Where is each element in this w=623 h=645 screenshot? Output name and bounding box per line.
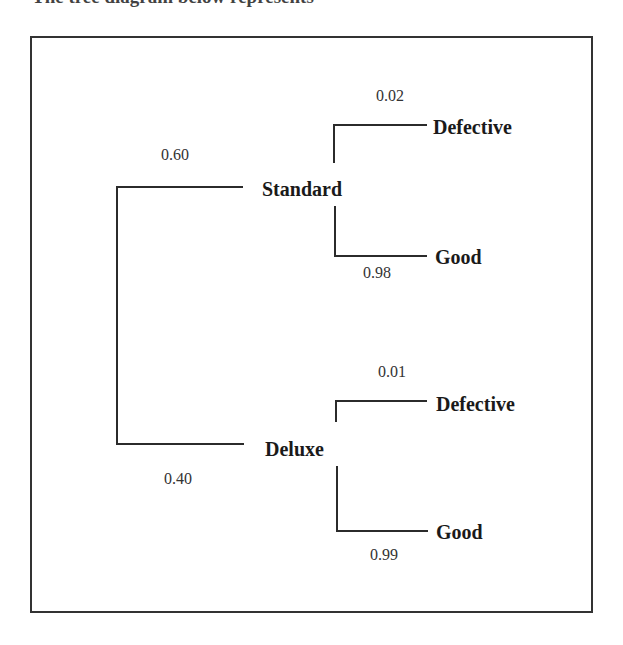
node-standard-good: Good <box>435 246 482 268</box>
deluxe-upper-stem <box>335 400 337 422</box>
node-deluxe-defective: Defective <box>436 393 515 415</box>
branch-root-standard <box>116 186 243 188</box>
prob-standard-defective: 0.02 <box>376 87 404 105</box>
node-deluxe-good: Good <box>436 521 483 543</box>
node-standard-defective: Defective <box>433 116 512 138</box>
node-deluxe: Deluxe <box>265 438 324 460</box>
root-spine <box>116 186 118 445</box>
prob-deluxe: 0.40 <box>164 470 192 488</box>
standard-lower-stem <box>334 206 336 256</box>
prob-deluxe-good: 0.99 <box>370 546 398 564</box>
deluxe-lower-stem <box>336 466 338 531</box>
clipped-heading: The tree diagram below represents <box>32 0 314 8</box>
prob-standard: 0.60 <box>161 146 189 164</box>
branch-root-deluxe <box>116 443 244 445</box>
prob-standard-good: 0.98 <box>363 264 391 282</box>
branch-standard-good <box>334 255 427 257</box>
standard-upper-stem <box>333 124 335 163</box>
branch-standard-defective <box>333 124 427 126</box>
branch-deluxe-defective <box>335 400 427 402</box>
branch-deluxe-good <box>336 530 428 532</box>
prob-deluxe-defective: 0.01 <box>378 363 406 381</box>
node-standard: Standard <box>262 178 342 200</box>
